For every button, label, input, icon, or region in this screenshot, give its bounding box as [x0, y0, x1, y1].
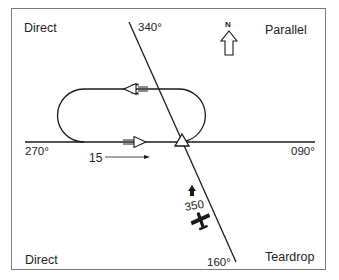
holding-pattern-racetrack: [58, 89, 206, 142]
bearing-label-270: 270°: [25, 146, 49, 158]
sector-label-teardrop: Teardrop: [265, 251, 314, 264]
distance-arrow-icon: [105, 155, 150, 159]
bearing-label-160: 160°: [207, 257, 231, 269]
north-arrow-icon: [221, 31, 237, 55]
sector-label-direct-bottom: Direct: [25, 254, 58, 267]
bearing-label-090: 090°: [291, 146, 315, 158]
holding-pattern-diagram: [0, 0, 339, 280]
north-label: N: [225, 21, 231, 29]
sector-label-direct-top: Direct: [24, 22, 57, 35]
airplane-icon: [189, 209, 214, 232]
heading-arrow-icon: [188, 185, 196, 196]
holding-fix-triangle-icon: [175, 134, 189, 146]
sector-label-parallel: Parallel: [265, 24, 307, 37]
bearing-label-340: 340°: [138, 22, 162, 34]
leg-distance-label: 15: [89, 152, 102, 164]
